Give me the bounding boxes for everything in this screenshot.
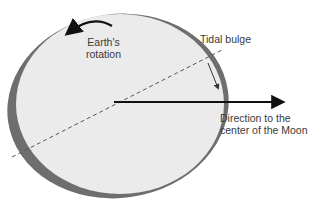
earth-rotation-label: Earth's rotation — [86, 36, 121, 60]
tidal-bulge-label: Tidal bulge — [200, 33, 251, 45]
moon-label-line1: Direction to the — [220, 112, 308, 124]
rotation-label-line1: Earth's — [86, 36, 121, 48]
rotation-label-line2: rotation — [86, 48, 121, 60]
tidal-bulge-diagram — [0, 0, 318, 202]
moon-label-line2: center of the Moon — [220, 124, 308, 136]
moon-direction-label: Direction to the center of the Moon — [220, 112, 308, 136]
